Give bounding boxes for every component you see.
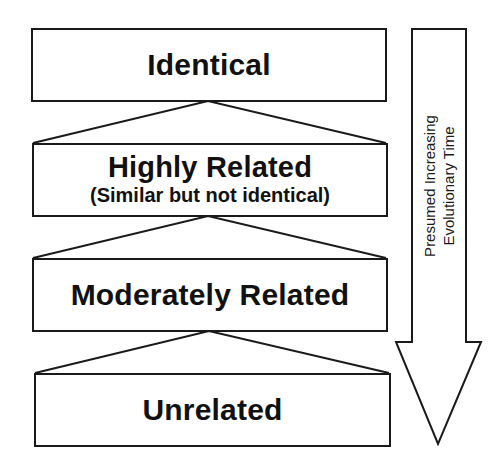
connector-triangle-2 bbox=[33, 216, 386, 258]
level-title: Unrelated bbox=[142, 393, 282, 427]
evolutionary-relatedness-diagram: Identical Highly Related (Similar but no… bbox=[0, 0, 500, 464]
connector-triangle-1 bbox=[33, 101, 386, 143]
level-title: Moderately Related bbox=[71, 278, 350, 312]
arrow-label-line-1: Presumed Increasing bbox=[420, 115, 439, 257]
level-subtitle: (Similar but not identical) bbox=[90, 183, 330, 207]
level-box-unrelated: Unrelated bbox=[34, 373, 391, 447]
level-box-highly-related: Highly Related (Similar but not identica… bbox=[32, 143, 388, 217]
level-box-identical: Identical bbox=[31, 28, 387, 102]
level-box-moderately-related: Moderately Related bbox=[32, 258, 388, 332]
level-title: Highly Related bbox=[108, 151, 312, 183]
level-title: Identical bbox=[147, 48, 271, 82]
arrow-label-line-2: Evolutionary Time bbox=[439, 115, 458, 257]
connector-triangle-3 bbox=[35, 331, 389, 373]
